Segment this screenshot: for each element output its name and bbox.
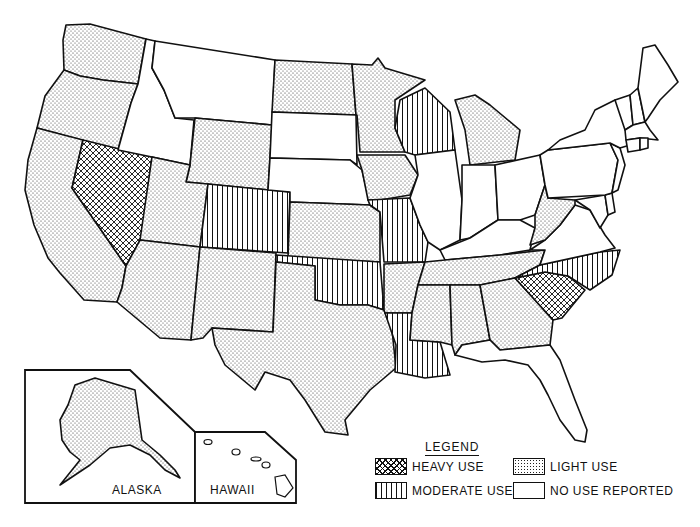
blank-swatch: [513, 482, 545, 499]
legend-item-light: LIGHT USE: [513, 458, 618, 475]
legend-label-light: LIGHT USE: [550, 460, 618, 474]
state-mi: [455, 95, 520, 165]
state-fl: [455, 340, 587, 442]
legend-item-heavy: HEAVY USE: [375, 458, 484, 475]
state-nm: [191, 247, 276, 340]
crosshatch-swatch: [375, 458, 407, 475]
state-nd: [272, 60, 356, 115]
state-ct: [626, 138, 640, 152]
state-me: [638, 45, 678, 122]
legend-title: LEGEND: [425, 440, 479, 456]
state-co: [200, 184, 290, 253]
alaska-label: ALASKA: [112, 483, 162, 497]
legend: LEGEND HEAVY USE LIGHT USE MODERATE USE …: [375, 440, 695, 520]
hawaii-label: HAWAII: [210, 483, 255, 497]
vertical-lines-swatch: [375, 482, 407, 499]
state-ia: [357, 155, 418, 200]
state-ms: [410, 285, 452, 345]
legend-label-heavy: HEAVY USE: [412, 460, 484, 474]
legend-item-none: NO USE REPORTED: [513, 482, 673, 499]
state-ri: [640, 138, 648, 150]
stipple-swatch: [513, 458, 545, 475]
state-wy: [186, 118, 272, 190]
state-wi: [395, 88, 455, 155]
legend-item-moderate: MODERATE USE: [375, 482, 513, 499]
state-pa: [540, 143, 618, 198]
legend-label-moderate: MODERATE USE: [412, 484, 513, 498]
state-sd: [270, 112, 357, 165]
state-ks: [288, 202, 380, 262]
legend-label-none: NO USE REPORTED: [550, 484, 673, 498]
